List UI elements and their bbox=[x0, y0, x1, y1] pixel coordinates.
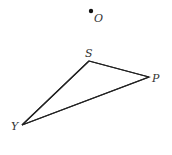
geometry-diagram: O S P Y bbox=[0, 0, 172, 155]
point-o-dot bbox=[89, 9, 93, 13]
segment-sp bbox=[89, 61, 149, 77]
vertex-s-label: S bbox=[85, 47, 93, 60]
segment-ys bbox=[22, 61, 89, 125]
vertex-p-label: P bbox=[151, 72, 160, 85]
segment-py bbox=[22, 77, 149, 125]
vertex-y-label: Y bbox=[11, 120, 20, 133]
point-o-label: O bbox=[94, 12, 103, 25]
triangle-spy bbox=[22, 61, 149, 125]
